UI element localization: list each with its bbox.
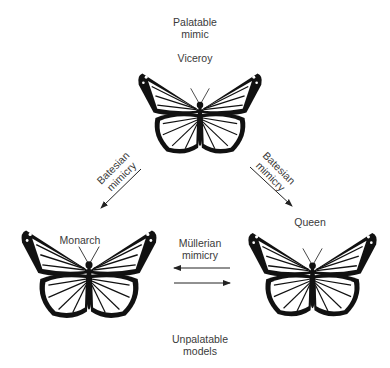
arrows-layer — [0, 0, 390, 368]
mullerian-line-2: mimicry — [150, 249, 250, 261]
mullerian-label: Müllerian mimicry — [150, 237, 250, 261]
bottom-heading-line-2: models — [150, 345, 250, 357]
mullerian-line-1: Müllerian — [150, 237, 250, 249]
unpalatable-models-heading: Unpalatable models — [150, 333, 250, 357]
bottom-heading-line-1: Unpalatable — [150, 333, 250, 345]
